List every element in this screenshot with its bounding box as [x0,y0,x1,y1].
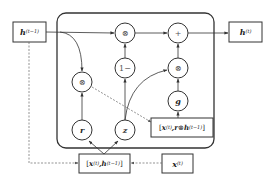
mult-right-icon: ⊗ [168,58,188,78]
mult-left-icon: ⊗ [72,72,92,92]
concat-x-rh-label: [x(t),r⊗h(t−1)] [151,118,213,137]
one-minus-label: 1− [115,58,135,78]
plus-icon: + [168,23,188,43]
x-t-sup: (t) [177,160,183,166]
h-prev-sup: (t−1) [26,28,39,34]
concat-h-sup: (t−1) [107,160,120,166]
g-node-label: g [168,91,188,111]
h-t-sup: (t) [245,28,251,34]
z-node-label: z [115,120,135,140]
mult-top-icon: ⊗ [115,23,135,43]
h-prev-label: h(t−1) [13,22,46,42]
r-node-label: r [72,120,92,140]
x-t-label: x(t) [162,154,193,173]
concat-x-sup: (t) [93,160,99,166]
concat-x-sup: (t) [166,124,172,130]
concat-x-h-label: [x(t),h(t−1)] [79,154,130,173]
concat-h-sup: (t−1) [189,124,202,130]
h-t-label: h(t) [229,22,262,42]
bracket-close: ] [202,124,205,132]
bracket-close: ] [120,160,123,168]
